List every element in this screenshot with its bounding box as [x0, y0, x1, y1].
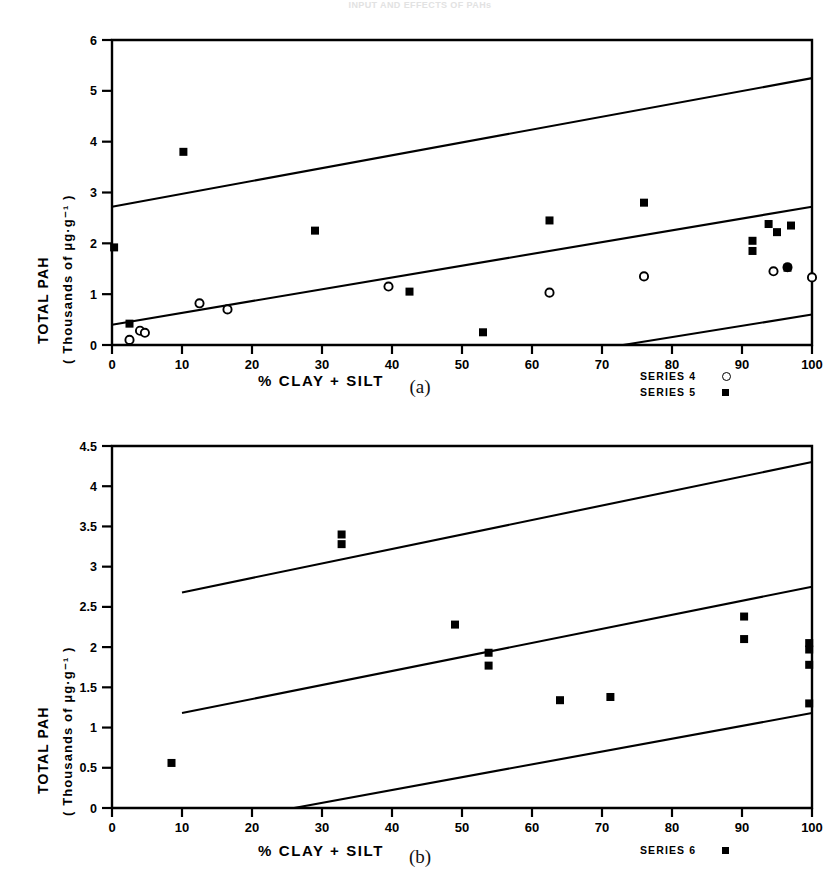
- figure-page: INPUT AND EFFECTS OF PAHs 01234560102030…: [0, 0, 840, 892]
- y-axis-title-b-text1: TOTAL PAH: [35, 707, 51, 794]
- data-point-filled-square: [749, 237, 757, 245]
- data-point-open-circle: [223, 305, 231, 313]
- data-point-filled-square: [805, 661, 813, 669]
- x-axis-tick-label: 10: [175, 357, 189, 372]
- y-axis-tick-label: 0.5: [80, 761, 97, 775]
- data-point-filled-square: [406, 288, 414, 296]
- trend-line-lower-bound: [623, 315, 812, 346]
- y-axis-title-a-line1: TOTAL PAH: [34, 257, 52, 344]
- y-axis-title-a-text1: TOTAL PAH: [35, 257, 51, 344]
- x-axis-tick-label: 0: [108, 357, 115, 372]
- y-axis-tick-label: 3.5: [80, 520, 97, 534]
- x-axis-tick-label: 20: [245, 357, 259, 372]
- data-point-filled-square: [485, 649, 493, 657]
- data-point-filled-square: [740, 613, 748, 621]
- faint-running-header: INPUT AND EFFECTS OF PAHs: [0, 0, 840, 11]
- y-axis-tick-label: 2: [90, 237, 97, 251]
- data-point-open-circle: [640, 272, 648, 280]
- data-point-filled-square: [749, 247, 757, 255]
- x-axis-tick-label: 10: [175, 820, 189, 835]
- y-axis-title-a-text2: ( Thousands of μg·g⁻¹ ): [60, 194, 75, 364]
- x-axis-tick-label: 0: [108, 820, 115, 835]
- data-point-filled-square: [311, 227, 319, 235]
- data-point-open-circle: [195, 299, 203, 307]
- x-axis-tick-label: 40: [385, 357, 399, 372]
- y-axis-tick-label: 2.5: [80, 600, 97, 614]
- data-point-filled-square: [784, 264, 792, 272]
- y-axis-tick-label: 0: [90, 802, 97, 816]
- data-point-filled-square: [485, 662, 493, 670]
- x-axis-tick-label: 90: [735, 357, 749, 372]
- data-point-filled-square: [765, 220, 773, 228]
- data-point-filled-square: [338, 540, 346, 548]
- data-point-filled-square: [805, 699, 813, 707]
- y-axis-tick-label: 3: [90, 186, 97, 200]
- data-point-filled-square: [740, 635, 748, 643]
- y-axis-tick-label: 2: [90, 641, 97, 655]
- y-axis-tick-label: 5: [90, 84, 97, 98]
- x-axis-tick-label: 40: [385, 820, 399, 835]
- scatter-plot-b: 00.511.522.533.544.501020304050607080901…: [0, 424, 840, 892]
- figure-panel-a: 01234560102030405060708090100 TOTAL PAH …: [0, 24, 840, 414]
- x-axis-tick-label: 30: [315, 357, 329, 372]
- data-point-open-circle: [141, 329, 149, 337]
- y-axis-title-b-line2: ( Thousands of μg·g⁻¹ ): [58, 646, 76, 816]
- data-point-filled-square: [110, 243, 118, 251]
- data-point-filled-square: [640, 199, 648, 207]
- data-point-filled-square: [126, 320, 134, 328]
- figure-panel-b: 00.511.522.533.544.501020304050607080901…: [0, 424, 840, 892]
- data-point-filled-square: [805, 646, 813, 654]
- data-point-filled-square: [451, 621, 459, 629]
- data-point-filled-square: [479, 328, 487, 336]
- y-axis-tick-label: 1: [90, 288, 97, 302]
- trend-line-regression: [112, 207, 812, 325]
- y-axis-tick-label: 4: [90, 135, 97, 149]
- y-axis-tick-label: 0: [90, 339, 97, 353]
- data-point-open-circle: [808, 273, 816, 281]
- trend-line-regression: [182, 587, 812, 713]
- x-axis-tick-label: 70: [595, 357, 609, 372]
- data-point-filled-square: [168, 759, 176, 767]
- x-axis-tick-label: 30: [315, 820, 329, 835]
- y-axis-tick-label: 4: [90, 480, 97, 494]
- y-axis-tick-label: 4.5: [80, 440, 97, 454]
- data-point-filled-square: [556, 696, 564, 704]
- data-point-filled-square: [787, 222, 795, 230]
- x-axis-tick-label: 60: [525, 820, 539, 835]
- trend-line-lower-bound: [294, 713, 812, 808]
- x-axis-tick-label: 90: [735, 820, 749, 835]
- trend-line-upper-bound: [112, 78, 812, 207]
- plot-frame: [112, 446, 812, 808]
- data-point-open-circle: [545, 289, 553, 297]
- y-axis-tick-label: 6: [90, 34, 97, 48]
- y-axis-title-a-line2: ( Thousands of μg·g⁻¹ ): [58, 194, 76, 364]
- x-axis-tick-label: 100: [801, 357, 823, 372]
- x-axis-tick-label: 80: [665, 820, 679, 835]
- data-point-open-circle: [384, 282, 392, 290]
- x-axis-tick-label: 50: [455, 357, 469, 372]
- panel-label-b: (b): [0, 846, 840, 868]
- x-axis-tick-label: 70: [595, 820, 609, 835]
- y-axis-tick-label: 3: [90, 560, 97, 574]
- y-axis-title-b-text2: ( Thousands of μg·g⁻¹ ): [60, 646, 75, 816]
- data-point-filled-square: [546, 216, 554, 224]
- y-axis-title-b-line1: TOTAL PAH: [34, 707, 52, 794]
- trend-line-upper-bound: [182, 462, 812, 592]
- x-axis-tick-label: 20: [245, 820, 259, 835]
- data-point-filled-square: [606, 693, 614, 701]
- data-point-open-circle: [769, 267, 777, 275]
- plot-frame: [112, 40, 812, 345]
- data-point-open-circle: [125, 336, 133, 344]
- x-axis-tick-label: 60: [525, 357, 539, 372]
- x-axis-tick-label: 100: [801, 820, 823, 835]
- panel-label-a: (a): [0, 376, 840, 398]
- data-point-filled-square: [338, 530, 346, 538]
- data-point-filled-square: [179, 148, 187, 156]
- scatter-plot-a: 01234560102030405060708090100: [0, 24, 840, 414]
- y-axis-tick-label: 1: [90, 721, 97, 735]
- x-axis-tick-label: 50: [455, 820, 469, 835]
- y-axis-tick-label: 1.5: [80, 681, 97, 695]
- data-point-filled-square: [773, 228, 781, 236]
